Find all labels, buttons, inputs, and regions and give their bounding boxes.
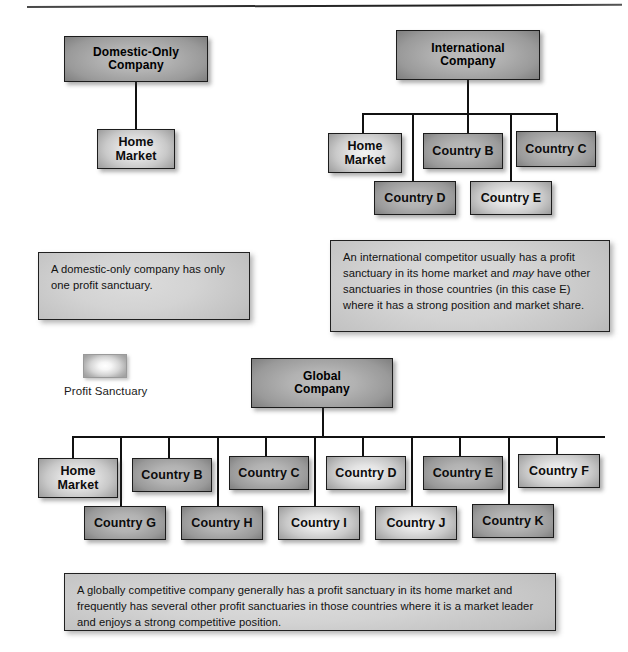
- global-drop-country-i: [314, 436, 316, 506]
- global-node-country-g: Country G: [84, 506, 166, 540]
- glob-r1-0-line2: Market: [58, 478, 99, 492]
- global-bus-horizontal: [72, 436, 605, 438]
- international-node-country-e: Country E: [470, 181, 552, 215]
- profit-sanctuary-legend-label: Profit Sanctuary: [64, 385, 147, 397]
- domestic-node-home-market: Home Market: [97, 129, 175, 169]
- domestic-node-home-market-text: Home Market: [116, 135, 157, 163]
- glob-r1-0-line1: Home: [60, 464, 95, 478]
- global-title-line2: Company: [294, 382, 349, 396]
- domestic-home-line1: Home: [118, 135, 153, 149]
- international-trunk-vertical: [467, 80, 469, 113]
- international-note-text: An international competitor usually has …: [343, 251, 590, 311]
- global-node-home-market-text: Home Market: [58, 464, 99, 492]
- domestic-company-title-box: Domestic-Only Company: [64, 36, 208, 82]
- international-drop-country-c: [556, 113, 558, 133]
- global-company-title-box: Global Company: [251, 358, 393, 408]
- glob-r2-2-label: Country I: [291, 516, 347, 530]
- global-node-country-j: Country J: [375, 506, 457, 540]
- international-company-title-text: International Company: [431, 42, 504, 69]
- domestic-title-line1: Domestic-Only: [93, 45, 179, 59]
- global-drop-country-e: [459, 436, 461, 458]
- international-node-home-market: Home Market: [328, 133, 402, 173]
- global-node-country-b: Country B: [132, 458, 212, 492]
- intl-r1-2-label: Country C: [525, 142, 586, 156]
- intl-r2-0-label: Country D: [384, 191, 445, 205]
- global-drop-country-c: [265, 436, 267, 458]
- global-title-line1: Global: [303, 369, 341, 383]
- intl-title-line1: International: [431, 41, 504, 55]
- global-node-country-d: Country D: [326, 456, 406, 490]
- glob-r1-4-label: Country E: [433, 466, 494, 480]
- intl-note-italic: may: [513, 267, 534, 279]
- glob-r1-1-label: Country B: [141, 468, 202, 482]
- global-drop-country-h: [217, 436, 219, 506]
- glob-r1-3-label: Country D: [335, 466, 396, 480]
- profit-sanctuary-swatch-icon: [83, 354, 127, 378]
- domestic-home-line2: Market: [116, 149, 157, 163]
- domestic-title-line2: Company: [108, 58, 163, 72]
- domestic-company-title-text: Domestic-Only Company: [93, 46, 179, 73]
- intl-title-line2: Company: [440, 54, 495, 68]
- glob-r2-4-label: Country K: [482, 514, 543, 528]
- global-drop-country-g: [120, 436, 122, 506]
- international-drop-country-b: [467, 113, 469, 133]
- international-node-country-c: Country C: [516, 131, 596, 167]
- global-node-country-e: Country E: [423, 456, 503, 490]
- global-drop-country-k: [508, 436, 510, 506]
- global-node-country-k: Country K: [472, 504, 554, 538]
- international-note-box: An international competitor usually has …: [330, 240, 610, 332]
- glob-r2-1-label: Country H: [191, 516, 252, 530]
- domestic-note-box: A domestic-only company has only one pro…: [38, 252, 250, 320]
- intl-r1-0-line1: Home: [347, 139, 382, 153]
- international-node-home-market-text: Home Market: [345, 139, 386, 167]
- glob-r1-5-label: Country F: [529, 464, 589, 478]
- intl-r1-1-label: Country B: [432, 144, 493, 158]
- global-drop-country-b: [168, 436, 170, 458]
- international-drop-country-d: [412, 113, 414, 181]
- global-node-country-f: Country F: [518, 454, 600, 488]
- global-drop-home-market: [72, 436, 74, 458]
- page-header-rule: [27, 4, 622, 8]
- diagram-canvas: Domestic-Only Company Home Market A dome…: [0, 0, 628, 652]
- global-note-text: A globally competitive company generally…: [77, 584, 533, 628]
- intl-r1-0-line2: Market: [345, 153, 386, 167]
- international-node-country-d: Country D: [374, 181, 456, 215]
- global-node-country-c: Country C: [229, 456, 309, 490]
- global-trunk-vertical: [322, 408, 324, 436]
- international-bus-horizontal: [362, 113, 558, 115]
- international-drop-country-e: [510, 113, 512, 181]
- global-node-country-i: Country I: [278, 506, 360, 540]
- glob-r2-0-label: Country G: [94, 516, 156, 530]
- global-node-home-market: Home Market: [38, 458, 118, 498]
- global-note-box: A globally competitive company generally…: [64, 573, 556, 631]
- global-drop-country-j: [411, 436, 413, 506]
- glob-r1-2-label: Country C: [238, 466, 299, 480]
- global-drop-country-d: [362, 436, 364, 458]
- international-company-title-box: International Company: [396, 30, 540, 80]
- global-node-country-h: Country H: [181, 506, 263, 540]
- intl-r2-1-label: Country E: [481, 191, 542, 205]
- international-node-country-b: Country B: [423, 133, 503, 169]
- international-drop-home-market: [362, 113, 364, 133]
- domestic-note-text: A domestic-only company has only one pro…: [51, 263, 225, 291]
- global-company-title-text: Global Company: [294, 370, 349, 397]
- domestic-connector-vertical: [135, 82, 137, 129]
- glob-r2-3-label: Country J: [386, 516, 445, 530]
